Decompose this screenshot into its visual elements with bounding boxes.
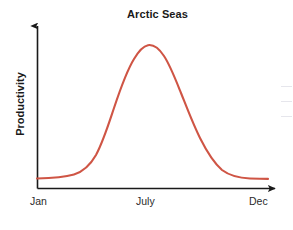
cropped-text-fragment	[281, 86, 292, 87]
productivity-curve	[37, 45, 268, 179]
cropped-text-fragment	[281, 116, 292, 117]
x-tick-label-july: July	[136, 195, 155, 207]
chart-figure: Arctic Seas Productivity Jan July Dec	[0, 0, 293, 230]
x-tick-label-jan: Jan	[30, 195, 47, 207]
x-tick-label-dec: Dec	[249, 195, 268, 207]
cropped-text-fragment	[281, 101, 292, 102]
